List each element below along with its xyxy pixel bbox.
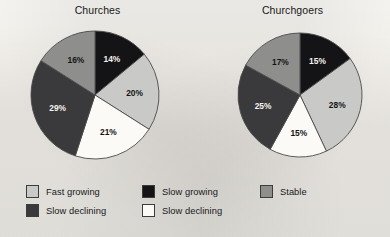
pie-slice-label: 17% [272, 57, 289, 67]
pie-slice-label: 16% [67, 55, 84, 65]
legend-swatch-slow-declining-dark [26, 204, 39, 217]
legend-swatch-stable [260, 185, 273, 198]
pie-chart-churchgoers: Churchgoers 15%28%15%25%17% [195, 0, 390, 175]
legend-label-stable: Stable [280, 187, 307, 197]
pie-slice-label: 29% [49, 103, 66, 113]
pie-svg-churchgoers: 15%28%15%25%17% [195, 0, 390, 175]
pie-slice-label: 25% [255, 101, 272, 111]
legend-item-slow-declining-white: Slow declining [142, 203, 260, 218]
legend: Fast growing Slow declining Slow growing… [26, 184, 370, 228]
legend-swatch-slow-declining-white [142, 204, 155, 217]
legend-item-slow-growing: Slow growing [142, 184, 260, 199]
charts-area: Churches 14%20%21%29%16% Churchgoers 15%… [0, 0, 390, 175]
pie-chart-churches: Churches 14%20%21%29%16% [0, 0, 195, 175]
legend-item-stable: Stable [260, 184, 360, 199]
pie-slice-label: 21% [100, 127, 117, 137]
legend-swatch-slow-growing [142, 185, 155, 198]
legend-label-slow-growing: Slow growing [162, 187, 218, 197]
pie-svg-churches: 14%20%21%29%16% [0, 0, 195, 175]
pie-canvas-churchgoers: 15%28%15%25%17% [195, 0, 390, 175]
pie-slice-label: 15% [309, 56, 326, 66]
pie-slice-label: 20% [126, 88, 143, 98]
legend-column-3: Stable [260, 184, 360, 199]
legend-swatch-fast-growing [26, 185, 39, 198]
legend-column-1: Fast growing Slow declining [26, 184, 142, 218]
legend-label-slow-declining-dark: Slow declining [46, 206, 106, 216]
pie-slice-label: 28% [329, 100, 346, 110]
pie-canvas-churches: 14%20%21%29%16% [0, 0, 195, 175]
legend-label-slow-declining-white: Slow declining [162, 206, 222, 216]
legend-label-fast-growing: Fast growing [46, 187, 100, 197]
pie-slice-label: 15% [290, 128, 307, 138]
legend-item-fast-growing: Fast growing [26, 184, 142, 199]
legend-item-slow-declining-dark: Slow declining [26, 203, 142, 218]
pie-slice-label: 14% [104, 54, 121, 64]
legend-column-2: Slow growing Slow declining [142, 184, 260, 218]
